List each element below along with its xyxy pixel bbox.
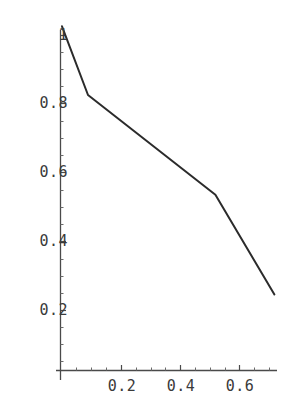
x-tick-label-0-2: 0.2 <box>108 379 137 394</box>
data-series-line <box>62 26 274 294</box>
y-tick-label-0-8: 0.8 <box>39 96 68 111</box>
y-tick-label-1: 1 <box>58 28 68 43</box>
x-axis-major-ticks <box>122 365 240 371</box>
x-tick-label-0-6: 0.6 <box>226 379 255 394</box>
y-tick-label-0-2: 0.2 <box>39 303 68 318</box>
plot-figure: 1 0.8 0.6 0.4 0.2 0.2 0.4 0.6 <box>0 0 288 412</box>
x-tick-label-0-4: 0.4 <box>167 379 196 394</box>
plot-canvas <box>0 0 288 412</box>
y-tick-label-0-6: 0.6 <box>39 165 68 180</box>
y-tick-label-0-4: 0.4 <box>39 234 68 249</box>
